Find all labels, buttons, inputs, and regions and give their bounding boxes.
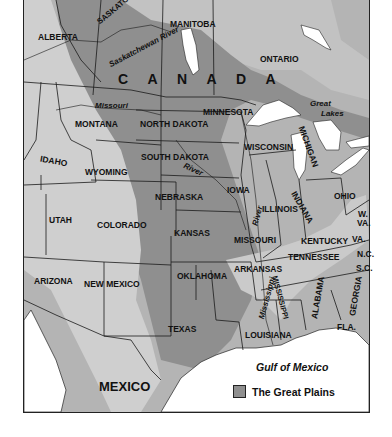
label-illinois: ILLINOIS [262,205,298,214]
label-lakes: Lakes [321,110,344,118]
label-missouri: MISSOURI [234,236,276,245]
label-oklahoma: OKLAHOMA [177,272,227,281]
label-gulf-of-mexico: Gulf of Mexico [256,362,328,373]
label-great: Great [310,100,331,108]
label-arizona: ARIZONA [34,277,73,286]
label-new-mexico: NEW MEXICO [84,280,140,289]
label-utah: UTAH [49,216,72,225]
label-virginia: VA. [352,235,366,244]
label-south-carolina: S.C. [356,264,373,273]
label-florida: FLA. [337,323,356,332]
label-texas: TEXAS [168,325,196,334]
label-kansas: KANSAS [174,229,210,238]
label-colorado: COLORADO [97,221,147,230]
label-tennessee: TENNESSEE [288,253,340,262]
label-north-dakota: NORTH DAKOTA [140,120,208,129]
label-canada: C A N A D A [118,72,284,86]
label-kentucky: KENTUCKY [301,237,348,246]
label-ohio: OHIO [334,192,356,201]
label-louisiana: LOUISIANA [245,331,292,340]
label-montana: MONTANA [75,120,118,129]
map-legend: The Great Plains [233,385,335,398]
label-nebraska: NEBRASKA [155,193,203,202]
label-iowa: IOWA [227,186,250,195]
label-north-carolina: N.C. [357,250,374,259]
label-alberta: ALBERTA [38,33,78,42]
label-minnesota: MINNESOTA [203,108,253,117]
label-wisconsin: WISCONSIN [244,143,293,152]
label-south-dakota: SOUTH DAKOTA [141,153,209,162]
map-graphic [24,0,369,412]
label-mexico: MEXICO [99,380,150,393]
label-west-virginia-2: VA. [357,219,371,228]
label-missouri-river: Missouri [95,102,128,110]
label-wyoming: WYOMING [85,168,128,177]
legend-label: The Great Plains [252,386,335,398]
label-ontario: ONTARIO [260,55,299,64]
great-plains-swatch [233,385,246,398]
map-frame [23,0,370,413]
label-arkansas: ARKANSAS [234,265,282,274]
